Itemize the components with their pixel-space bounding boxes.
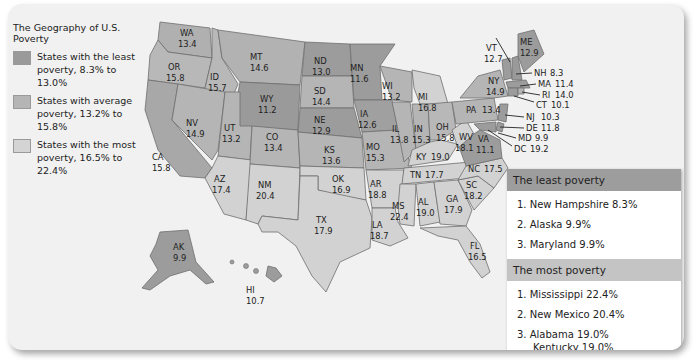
state-NJ — [498, 104, 508, 122]
state-MD — [474, 122, 496, 132]
state-WI — [380, 66, 412, 102]
state-MS — [398, 184, 416, 226]
state-CT — [508, 88, 518, 96]
legend-item-average: States with average poverty, 13.2% to 15… — [13, 94, 143, 133]
legend-label-least: States with the least poverty, 8.3% to 1… — [37, 50, 143, 89]
state-PA — [452, 98, 498, 124]
state-WY — [232, 82, 300, 130]
state-ND — [302, 42, 352, 76]
most-poverty-item: 1. Mississippi 22.4% — [517, 285, 681, 305]
legend-item-most: States with the most poverty, 16.5% to 2… — [13, 138, 143, 177]
most-poverty-item: 2. New Mexico 20.4% — [517, 305, 681, 325]
legend-swatch-average — [13, 95, 31, 109]
least-poverty-item: 3. Maryland 9.9% — [517, 235, 681, 255]
legend-label-most: States with the most poverty, 16.5% to 2… — [37, 138, 143, 177]
state-AZ — [205, 156, 252, 220]
legend-swatch-least — [13, 51, 31, 65]
legend-swatch-most — [13, 139, 31, 153]
legend-item-least: States with the least poverty, 8.3% to 1… — [13, 50, 143, 89]
state-FL — [420, 226, 490, 278]
state-VT — [502, 58, 512, 80]
map-legend: The Geography of U.S. Poverty States wit… — [13, 22, 143, 182]
state-ME — [518, 30, 544, 72]
state-SD — [300, 76, 354, 108]
most-poverty-tie: Kentucky 19.0% — [517, 341, 681, 350]
map-panel: The Geography of U.S. Poverty States wit… — [8, 4, 684, 350]
state-NM — [246, 164, 300, 224]
state-MI — [412, 70, 448, 104]
state-KS — [298, 132, 364, 168]
state-RI — [518, 88, 524, 94]
state-MA — [506, 80, 530, 88]
least-poverty-heading: The least poverty — [507, 169, 681, 191]
legend-title: The Geography of U.S. Poverty — [13, 22, 143, 44]
most-poverty-list: 1. Mississippi 22.4% 2. New Mexico 20.4%… — [507, 281, 681, 350]
most-poverty-heading: The most poverty — [507, 259, 681, 281]
state-NY — [460, 70, 508, 98]
state-CO — [250, 126, 300, 168]
state-OH — [428, 102, 456, 140]
least-poverty-item: 1. New Hampshire 8.3% — [517, 195, 681, 215]
state-AK — [142, 230, 214, 290]
least-poverty-item: 2. Alaska 9.9% — [517, 215, 681, 235]
legend-label-average: States with average poverty, 13.2% to 15… — [37, 94, 143, 133]
poverty-rankings-box: The least poverty 1. New Hampshire 8.3% … — [507, 169, 681, 350]
state-IA — [354, 100, 398, 132]
state-HI — [266, 266, 282, 282]
least-poverty-list: 1. New Hampshire 8.3% 2. Alaska 9.9% 3. … — [507, 191, 681, 259]
